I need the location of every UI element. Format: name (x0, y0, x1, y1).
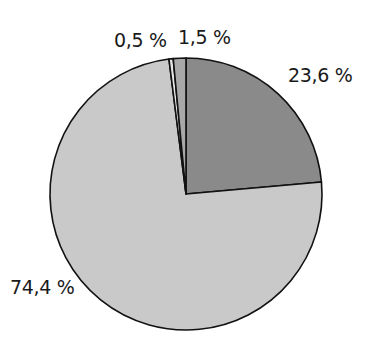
label-slice-0-5: 0,5 % (114, 29, 167, 51)
label-slice-74-4: 74,4 % (10, 276, 75, 298)
label-slice-23-6: 23,6 % (288, 64, 353, 86)
label-slice-1-5: 1,5 % (178, 26, 231, 48)
